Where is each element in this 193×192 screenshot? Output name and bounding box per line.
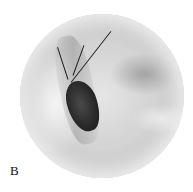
- illustration-figure: B: [0, 0, 193, 192]
- panel-label: B: [10, 163, 19, 179]
- endoscopic-view: [20, 14, 184, 178]
